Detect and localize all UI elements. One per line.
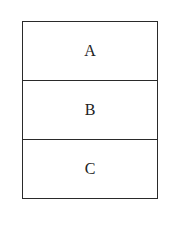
stacked-box-diagram: A B C: [22, 21, 158, 199]
cell-a-label: A: [84, 42, 96, 60]
cell-b: B: [23, 80, 157, 139]
cell-c: C: [23, 139, 157, 198]
cell-c-label: C: [85, 160, 96, 178]
cell-a: A: [23, 22, 157, 80]
cell-b-label: B: [85, 101, 96, 119]
